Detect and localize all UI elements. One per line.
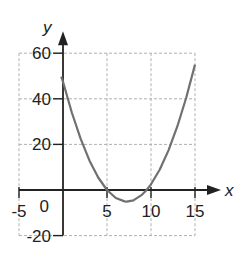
y-tick-label: 60: [32, 44, 51, 63]
x-tick-label: 15: [186, 202, 205, 221]
y-tick-label: 40: [32, 90, 51, 109]
y-axis-arrow-icon: [58, 31, 68, 45]
y-tick-label: 20: [32, 135, 51, 154]
x-axis-label: x: [224, 181, 234, 200]
y-axis-label: y: [42, 18, 53, 37]
x-tick-label: -5: [11, 202, 26, 221]
origin-label: 0: [40, 197, 49, 216]
parabola-curve: [61, 65, 195, 202]
chart: -551015604020-200xy: [0, 0, 246, 259]
x-axis-arrow-icon: [207, 185, 221, 195]
x-tick-label: 5: [102, 202, 111, 221]
tick-labels: -551015604020-200xy: [11, 18, 234, 245]
x-tick-label: 10: [142, 202, 161, 221]
y-tick-label: -20: [26, 227, 51, 246]
